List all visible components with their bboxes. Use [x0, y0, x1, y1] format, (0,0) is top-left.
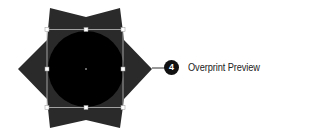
callout-label: Overprint Preview [188, 61, 260, 73]
callout-number-badge: 4 [164, 60, 179, 75]
handle-bottom-right[interactable] [121, 106, 125, 110]
center-point-icon [85, 68, 87, 70]
handle-bottom-center[interactable] [84, 106, 88, 110]
handle-middle-left[interactable] [45, 67, 49, 71]
handle-top-left[interactable] [45, 28, 49, 32]
handle-top-center[interactable] [84, 28, 88, 32]
handle-middle-right[interactable] [121, 67, 125, 71]
handle-top-right[interactable] [121, 28, 125, 32]
handle-bottom-left[interactable] [45, 106, 49, 110]
